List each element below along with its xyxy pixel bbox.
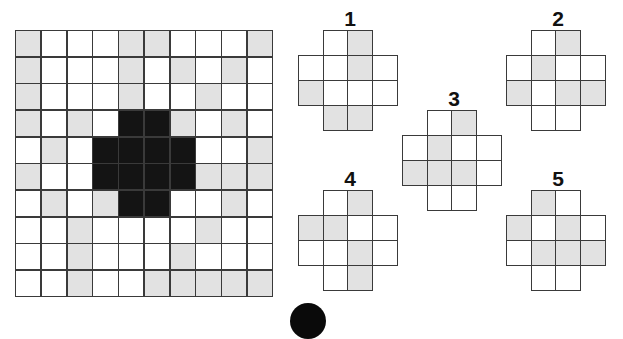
grid-cell bbox=[171, 244, 195, 269]
grid-cell bbox=[16, 164, 40, 189]
grid-cell bbox=[93, 271, 117, 296]
grid-cell bbox=[145, 111, 169, 136]
piece-option-2[interactable] bbox=[506, 31, 611, 137]
grid-cell bbox=[248, 218, 272, 243]
grid-cell bbox=[196, 84, 220, 109]
piece-cell bbox=[347, 240, 373, 267]
grid-cell bbox=[171, 111, 195, 136]
piece-label-3: 3 bbox=[439, 87, 469, 111]
piece-cell bbox=[555, 265, 581, 292]
grid-cell bbox=[42, 218, 66, 243]
grid-cell bbox=[16, 58, 40, 83]
grid-cell bbox=[16, 271, 40, 296]
grid-cell bbox=[248, 164, 272, 189]
grid-cell bbox=[42, 58, 66, 83]
grid-cell bbox=[145, 84, 169, 109]
grid-cell bbox=[222, 84, 246, 109]
grid-cell bbox=[93, 58, 117, 83]
piece-cell bbox=[427, 135, 453, 162]
piece-cell bbox=[372, 80, 398, 107]
piece-cell bbox=[506, 240, 532, 267]
grid-cell bbox=[145, 271, 169, 296]
grid-cell bbox=[222, 218, 246, 243]
grid-cell bbox=[145, 31, 169, 56]
piece-cell bbox=[476, 135, 502, 162]
piece-option-5[interactable] bbox=[506, 191, 611, 297]
grid-cell bbox=[196, 218, 220, 243]
grid-cell bbox=[222, 58, 246, 83]
grid-cell bbox=[68, 84, 92, 109]
piece-cell bbox=[580, 240, 606, 267]
grid-cell bbox=[16, 138, 40, 163]
grid-cell bbox=[68, 31, 92, 56]
piece-cell bbox=[580, 215, 606, 242]
grid-cell bbox=[93, 191, 117, 216]
grid-cell bbox=[93, 31, 117, 56]
grid-cell bbox=[171, 84, 195, 109]
grid-cell bbox=[145, 244, 169, 269]
piece-cell bbox=[298, 80, 324, 107]
grid-cell bbox=[42, 244, 66, 269]
grid-cell bbox=[171, 138, 195, 163]
grid-cell bbox=[68, 111, 92, 136]
grid-cell bbox=[16, 191, 40, 216]
piece-cell bbox=[323, 30, 349, 57]
grid-cell bbox=[16, 111, 40, 136]
piece-cell bbox=[531, 240, 557, 267]
grid-cell bbox=[42, 164, 66, 189]
piece-cell bbox=[451, 110, 477, 137]
grid-cell bbox=[119, 191, 143, 216]
piece-cell bbox=[531, 105, 557, 132]
piece-cell bbox=[347, 105, 373, 132]
grid-cell bbox=[196, 138, 220, 163]
piece-cell bbox=[323, 215, 349, 242]
piece-cell bbox=[323, 55, 349, 82]
grid-cell bbox=[222, 244, 246, 269]
piece-cell bbox=[402, 135, 428, 162]
grid-cell bbox=[42, 191, 66, 216]
grid-cell bbox=[248, 58, 272, 83]
grid-cell bbox=[119, 164, 143, 189]
piece-cell bbox=[451, 185, 477, 212]
piece-label-5: 5 bbox=[543, 167, 573, 191]
grid-cell bbox=[248, 138, 272, 163]
grid-cell bbox=[68, 138, 92, 163]
grid-cell bbox=[171, 58, 195, 83]
grid-cell bbox=[196, 111, 220, 136]
piece-option-4[interactable] bbox=[298, 191, 403, 297]
grid-cell bbox=[119, 58, 143, 83]
piece-option-1[interactable] bbox=[298, 31, 403, 137]
grid-cell bbox=[42, 31, 66, 56]
piece-cell bbox=[555, 215, 581, 242]
piece-cell bbox=[531, 55, 557, 82]
grid-cell bbox=[222, 191, 246, 216]
grid-cell bbox=[145, 164, 169, 189]
grid-cell bbox=[93, 244, 117, 269]
piece-cell bbox=[506, 80, 532, 107]
grid-cell bbox=[196, 58, 220, 83]
piece-cell bbox=[531, 265, 557, 292]
piece-cell bbox=[347, 30, 373, 57]
grid-cell bbox=[42, 138, 66, 163]
piece-cell bbox=[427, 110, 453, 137]
piece-label-2: 2 bbox=[543, 7, 573, 31]
piece-cell bbox=[555, 55, 581, 82]
grid-cell bbox=[119, 218, 143, 243]
grid-cell bbox=[68, 191, 92, 216]
grid-cell bbox=[16, 31, 40, 56]
grid-cell bbox=[248, 84, 272, 109]
piece-cell bbox=[555, 30, 581, 57]
grid-cell bbox=[196, 271, 220, 296]
grid-cell bbox=[248, 244, 272, 269]
grid-cell bbox=[93, 164, 117, 189]
grid-cell bbox=[196, 164, 220, 189]
piece-cell bbox=[580, 55, 606, 82]
piece-label-1: 1 bbox=[335, 7, 365, 31]
piece-option-3[interactable] bbox=[402, 111, 507, 217]
grid-cell bbox=[248, 191, 272, 216]
grid-cell bbox=[222, 271, 246, 296]
grid-cell bbox=[248, 111, 272, 136]
piece-cell bbox=[347, 55, 373, 82]
piece-cell bbox=[347, 80, 373, 107]
grid-cell bbox=[248, 31, 272, 56]
